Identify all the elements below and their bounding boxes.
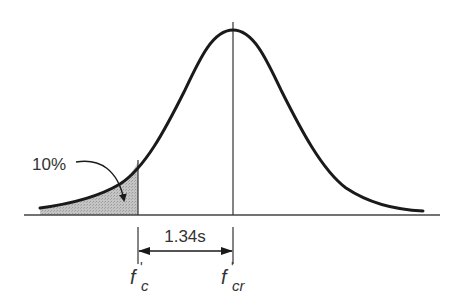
fcr-label: f ' cr [221, 259, 246, 294]
fc-label: f ' c [130, 259, 149, 294]
fc-label-main: f [130, 266, 138, 288]
distribution-diagram: 10% 1.34s f ' c f ' cr [0, 0, 462, 308]
offset-label: 1.34s [164, 227, 206, 246]
bell-curve [40, 30, 423, 211]
fcr-label-prime: ' [231, 259, 234, 275]
fc-label-subscript: c [141, 277, 149, 294]
fc-label-prime: ' [140, 259, 143, 275]
tail-percent-label: 10% [32, 155, 66, 174]
fcr-label-main: f [221, 266, 229, 288]
fcr-label-subscript: cr [232, 277, 246, 294]
